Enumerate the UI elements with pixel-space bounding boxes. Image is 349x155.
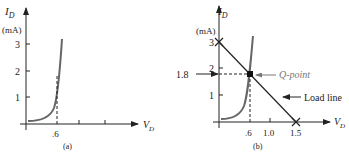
y-tick-1: 1 bbox=[15, 92, 20, 103]
y-unit-a: (mA) bbox=[2, 25, 22, 35]
x-tick-10: 1.0 bbox=[263, 128, 275, 138]
x-label-a: VD bbox=[143, 119, 154, 133]
y-tick-3: 3 bbox=[15, 39, 20, 50]
y-tick-2: 2 bbox=[15, 66, 20, 77]
graph-a: ID (mA) 3 2 1 VD .6 (a) bbox=[2, 5, 154, 151]
x-tick-06: .6 bbox=[52, 129, 59, 139]
q-value-label: 1.8 bbox=[176, 69, 189, 80]
caption-b: (b) bbox=[253, 142, 263, 151]
x-label-b: VD bbox=[334, 116, 345, 130]
y-tick-2: 2 bbox=[209, 63, 214, 74]
load-line-label: Load line bbox=[304, 92, 343, 103]
diode-diagram: ID (mA) 3 2 1 VD .6 (a) ID (mA) 3 2 1 1.… bbox=[0, 0, 349, 155]
caption-a: (a) bbox=[63, 142, 72, 151]
y-label-a: ID bbox=[4, 5, 15, 20]
load-line bbox=[219, 42, 296, 122]
y-tick-3: 3 bbox=[209, 37, 214, 48]
x-tick-15: 1.5 bbox=[290, 128, 302, 138]
graph-b: ID (mA) 3 2 1 1.8 Q-point Load line VD .… bbox=[176, 5, 345, 151]
q-point-marker bbox=[247, 71, 253, 77]
y-unit-b: (mA) bbox=[196, 26, 216, 36]
x-tick-06: .6 bbox=[245, 128, 252, 138]
y-tick-1: 1 bbox=[209, 90, 214, 101]
q-point-label: Q-point bbox=[279, 69, 310, 80]
